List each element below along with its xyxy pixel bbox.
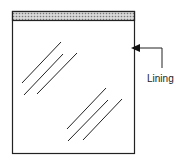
lining-label: Lining bbox=[147, 73, 174, 84]
bag-body bbox=[13, 12, 135, 154]
top-seal-strip bbox=[13, 12, 135, 21]
lining-arrow bbox=[131, 44, 162, 68]
